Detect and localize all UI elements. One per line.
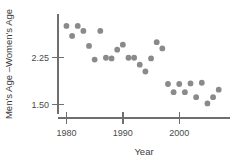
x-axis-ticks: 198019902000 [56, 112, 189, 138]
data-point [216, 87, 222, 93]
data-point [143, 69, 149, 75]
data-point [171, 89, 177, 95]
data-point [131, 55, 137, 61]
data-point [126, 55, 132, 61]
x-tick-label: 2000 [169, 128, 189, 138]
scatter-chart: 1.502.25 198019902000 Men's Age –Women's… [0, 0, 233, 166]
data-point [148, 55, 154, 61]
x-tick-label: 1980 [56, 128, 76, 138]
data-point [97, 28, 103, 34]
data-point [103, 55, 109, 61]
data-point [75, 23, 81, 29]
data-point [64, 23, 70, 29]
data-point [120, 42, 126, 48]
data-point [109, 55, 115, 61]
data-point [165, 81, 171, 87]
y-axis-title: Men's Age –Women's Age [3, 9, 14, 119]
data-points-group [64, 23, 222, 106]
data-point [210, 94, 216, 100]
data-point [114, 47, 120, 53]
data-point [69, 33, 75, 39]
y-tick-label: 2.25 [31, 53, 49, 63]
data-point [188, 80, 194, 86]
data-point [193, 94, 199, 100]
x-tick-label: 1990 [113, 128, 133, 138]
data-point [199, 80, 205, 86]
data-point [176, 81, 182, 87]
data-point [154, 39, 160, 45]
data-point [86, 43, 92, 49]
data-point [92, 57, 98, 63]
x-axis-title: Year [134, 146, 153, 157]
y-axis-ticks: 1.502.25 [31, 53, 64, 110]
data-point [137, 62, 143, 68]
data-point [182, 89, 188, 95]
y-tick-label: 1.50 [31, 100, 49, 110]
data-point [80, 28, 86, 34]
plot-area: 1.502.25 198019902000 Men's Age –Women's… [0, 0, 233, 166]
data-point [205, 100, 211, 106]
data-point [159, 45, 165, 51]
